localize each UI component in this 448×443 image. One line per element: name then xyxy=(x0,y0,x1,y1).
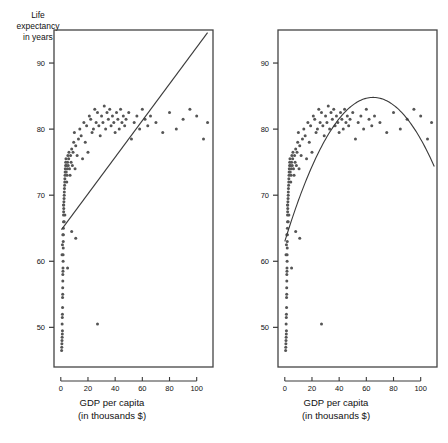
svg-text:100: 100 xyxy=(190,384,203,393)
svg-text:80: 80 xyxy=(389,384,397,393)
svg-text:80: 80 xyxy=(165,384,173,393)
panel-left-linear-fit: Life expectancy in years 506070809002040… xyxy=(0,0,224,443)
svg-text:50: 50 xyxy=(261,323,269,332)
x-axis-title-left: GDP per capita (in thousands $) xyxy=(0,396,224,422)
two-panel-scatterplot-figure: Life expectancy in years 506070809002040… xyxy=(0,0,448,443)
svg-text:40: 40 xyxy=(111,384,119,393)
plot-area-left: 5060708090020406080100 xyxy=(0,0,224,400)
x-axis-title-line1: GDP per capita xyxy=(0,396,224,409)
panel-right-quadratic-fit: 5060708090020406080100 GDP per capita (i… xyxy=(224,0,448,443)
svg-text:0: 0 xyxy=(283,384,287,393)
svg-text:90: 90 xyxy=(261,59,269,68)
svg-text:60: 60 xyxy=(138,384,146,393)
svg-text:50: 50 xyxy=(37,323,45,332)
svg-text:90: 90 xyxy=(37,59,45,68)
x-axis-title-line2: (in thousands $) xyxy=(224,409,448,422)
svg-text:20: 20 xyxy=(84,384,92,393)
svg-text:40: 40 xyxy=(335,384,343,393)
svg-text:60: 60 xyxy=(362,384,370,393)
svg-text:70: 70 xyxy=(261,191,269,200)
svg-text:70: 70 xyxy=(37,191,45,200)
svg-text:80: 80 xyxy=(261,125,269,134)
svg-text:60: 60 xyxy=(37,257,45,266)
svg-text:20: 20 xyxy=(308,384,316,393)
svg-text:0: 0 xyxy=(59,384,63,393)
x-axis-title-right: GDP per capita (in thousands $) xyxy=(224,396,448,422)
svg-text:60: 60 xyxy=(261,257,269,266)
x-axis-title-line2: (in thousands $) xyxy=(0,409,224,422)
svg-text:80: 80 xyxy=(37,125,45,134)
plot-area-right: 5060708090020406080100 xyxy=(224,0,448,400)
svg-text:100: 100 xyxy=(414,384,427,393)
x-axis-title-line1: GDP per capita xyxy=(224,396,448,409)
